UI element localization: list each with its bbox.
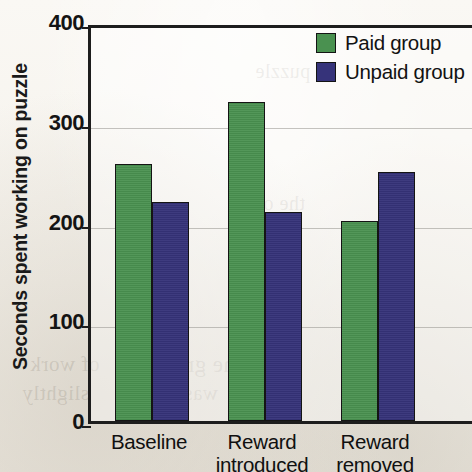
chart-legend: Paid groupUnpaid group: [316, 30, 465, 88]
y-axis-tick-label: 400: [26, 10, 84, 36]
legend-swatch-icon: [316, 33, 336, 53]
bar-reward-introduced-unpaid-group: [265, 212, 302, 421]
legend-item-unpaid-group[interactable]: Unpaid group: [316, 59, 465, 85]
x-axis-label-line1: Reward: [341, 430, 410, 453]
legend-swatch-icon: [316, 62, 336, 82]
y-axis-tick-mark: [82, 227, 91, 229]
y-axis-tick-label: 100: [26, 309, 84, 335]
legend-label: Paid group: [345, 31, 441, 55]
legend-label: Unpaid group: [345, 60, 465, 84]
y-axis-tick-mark: [82, 326, 91, 328]
bar-reward-removed-unpaid-group: [378, 172, 415, 421]
x-axis-label-line2: removed: [300, 453, 450, 472]
bar-reward-removed-paid-group: [341, 221, 378, 421]
x-axis-tick-labels: BaselineRewardintroducedRewardremoved: [88, 430, 472, 472]
y-axis-tick-label: 200: [26, 210, 84, 236]
bar-baseline-paid-group: [115, 164, 152, 421]
x-axis-label-line1: Reward: [228, 430, 297, 453]
y-axis-tick-mark: [82, 27, 91, 29]
bar-chart-figure: of work slightly One group was paid the …: [0, 0, 472, 472]
bar-baseline-unpaid-group: [152, 202, 189, 421]
y-axis-tick-labels: 0100200300400: [22, 0, 84, 472]
y-axis-tick-label: 300: [26, 110, 84, 136]
legend-item-paid-group[interactable]: Paid group: [316, 30, 465, 56]
y-axis-tick-mark: [82, 127, 91, 129]
x-axis-label-line1: Baseline: [111, 430, 187, 453]
y-axis-tick-mark: [82, 426, 91, 428]
bar-reward-introduced-paid-group: [228, 102, 265, 421]
x-axis-label-reward-removed: Rewardremoved: [300, 430, 450, 472]
